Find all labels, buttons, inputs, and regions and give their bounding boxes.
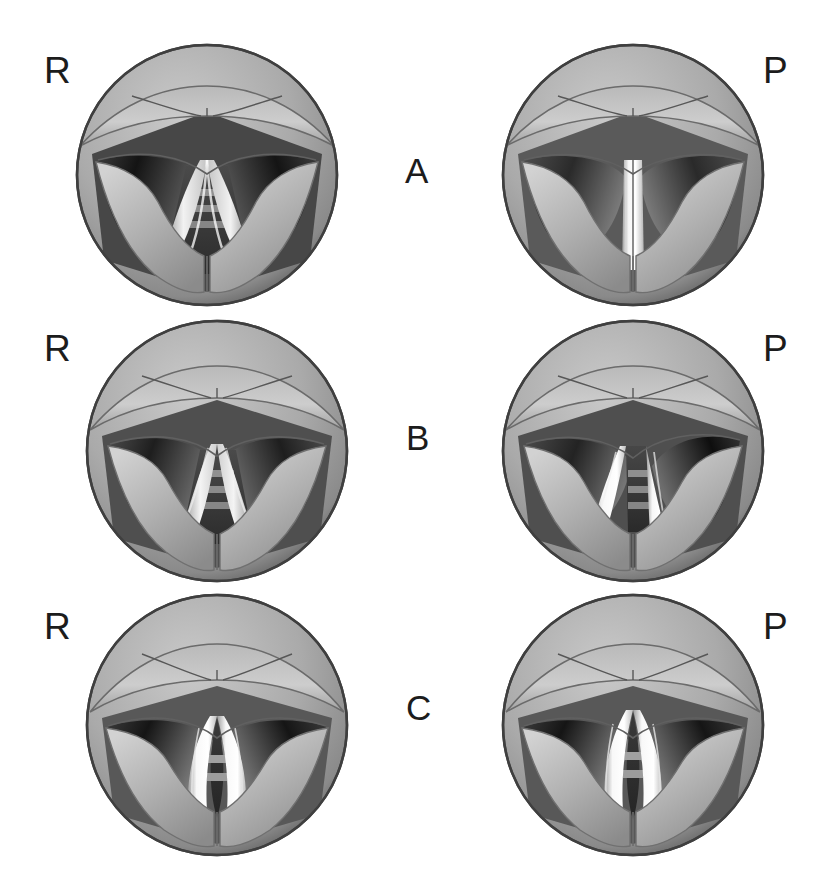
larynx-view-a-right xyxy=(500,42,766,310)
side-label-b-left: R xyxy=(44,330,71,367)
panel-a-right xyxy=(500,42,766,310)
laryngoscopy-figure: R xyxy=(0,0,827,879)
panel-a-left xyxy=(74,42,340,310)
row-label-c: C xyxy=(406,690,431,725)
side-label-b-right: P xyxy=(763,330,788,367)
larynx-view-c-left xyxy=(84,592,350,860)
tracheal-rings xyxy=(628,470,650,509)
side-label-c-right: P xyxy=(763,608,788,645)
larynx-view-b-left xyxy=(84,318,350,586)
panel-c-right xyxy=(500,592,766,860)
side-label-a-left: R xyxy=(44,52,71,89)
panel-b-left xyxy=(84,318,350,586)
row-label-b: B xyxy=(406,420,429,455)
side-label-a-right: P xyxy=(763,52,788,89)
larynx-view-a-left xyxy=(74,42,340,310)
larynx-view-b-right xyxy=(500,318,766,586)
panel-b-right xyxy=(500,318,766,586)
row-label-a: A xyxy=(405,153,428,188)
larynx-view-c-right xyxy=(500,592,766,860)
side-label-c-left: R xyxy=(44,608,71,645)
panel-c-left xyxy=(84,592,350,860)
